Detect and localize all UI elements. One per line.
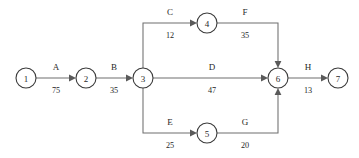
edge-b-arrowhead-icon — [126, 75, 133, 82]
edge-a-duration: 75 — [52, 86, 60, 95]
edge-c-arrowhead-icon — [190, 20, 197, 27]
edge-g-duration: 20 — [241, 141, 249, 150]
edge-e-arrowhead-icon — [190, 130, 197, 137]
node-1[interactable]: 1 — [16, 68, 36, 88]
node-3-label: 3 — [141, 74, 146, 84]
network-diagram: 1 2 3 4 5 6 7 A 75 B 35 — [0, 0, 359, 158]
node-6[interactable]: 6 — [268, 68, 288, 88]
edge-f-duration: 35 — [241, 31, 249, 40]
node-3[interactable]: 3 — [133, 68, 153, 88]
edge-c-duration: 12 — [166, 31, 174, 40]
edge-f-line — [217, 23, 278, 65]
node-2[interactable]: 2 — [76, 68, 96, 88]
edge-f-name: F — [242, 7, 247, 17]
node-2-label: 2 — [84, 74, 89, 84]
node-7-label: 7 — [336, 74, 341, 84]
edge-h-duration: 13 — [304, 86, 312, 95]
edge-e-group — [143, 88, 197, 136]
edge-g-arrowhead-icon — [275, 88, 282, 95]
edge-f-group — [217, 23, 281, 68]
edge-d-name: D — [209, 62, 216, 72]
edge-c-line — [143, 23, 194, 68]
node-4-label: 4 — [205, 19, 210, 29]
edge-g-name: G — [242, 117, 249, 127]
edge-b-group — [96, 75, 133, 82]
node-7[interactable]: 7 — [328, 68, 348, 88]
network-diagram-canvas: 1 2 3 4 5 6 7 A 75 B 35 — [0, 0, 359, 158]
edge-c-group — [143, 20, 197, 68]
node-5-label: 5 — [205, 129, 210, 139]
edge-a-arrowhead-icon — [69, 75, 76, 82]
edge-b-name: B — [111, 62, 117, 72]
node-4[interactable]: 4 — [197, 13, 217, 33]
edge-g-group — [217, 88, 281, 133]
edge-h-group — [288, 75, 328, 82]
node-5[interactable]: 5 — [197, 123, 217, 143]
node-6-label: 6 — [276, 74, 281, 84]
node-1-label: 1 — [24, 74, 29, 84]
edge-h-name: H — [305, 62, 312, 72]
edge-d-group — [153, 75, 268, 82]
edge-e-duration: 25 — [166, 141, 174, 150]
edge-d-arrowhead-icon — [261, 75, 268, 82]
edge-h-arrowhead-icon — [321, 75, 328, 82]
edge-d-duration: 47 — [208, 86, 216, 95]
edge-a-name: A — [53, 62, 60, 72]
edge-b-duration: 35 — [110, 86, 118, 95]
edge-c-name: C — [167, 7, 173, 17]
edge-f-arrowhead-icon — [275, 61, 282, 68]
edge-e-name: E — [167, 117, 173, 127]
edge-a-group — [36, 75, 76, 82]
